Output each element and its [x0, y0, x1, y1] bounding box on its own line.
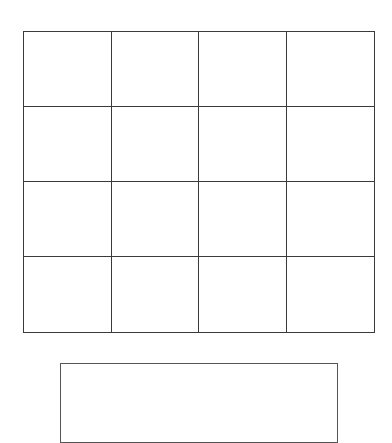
grid-cell-r2-c3[interactable] [199, 107, 287, 182]
grid-cell-r4-c1[interactable] [24, 257, 112, 332]
grid-cell-r2-c2[interactable] [112, 107, 200, 182]
grid-cell-r2-c4[interactable] [287, 107, 375, 182]
grid-cell-r4-c4[interactable] [287, 257, 375, 332]
grid-cell-r1-c4[interactable] [287, 32, 375, 107]
bottom-box[interactable] [60, 363, 338, 443]
grid-cell-r1-c3[interactable] [199, 32, 287, 107]
grid-cell-r4-c2[interactable] [112, 257, 200, 332]
grid-cell-r4-c3[interactable] [199, 257, 287, 332]
grid-cell-r2-c1[interactable] [24, 107, 112, 182]
grid-cell-r3-c2[interactable] [112, 182, 200, 257]
grid-cell-r3-c4[interactable] [287, 182, 375, 257]
grid-cell-r1-c2[interactable] [112, 32, 200, 107]
grid-cell-r3-c3[interactable] [199, 182, 287, 257]
grid-4x4 [23, 31, 375, 333]
grid-cell-r1-c1[interactable] [24, 32, 112, 107]
grid-cell-r3-c1[interactable] [24, 182, 112, 257]
